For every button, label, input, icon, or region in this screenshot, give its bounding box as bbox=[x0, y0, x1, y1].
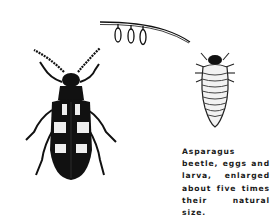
figure-caption: Asparagus beetle, eggs and larva, enlarg… bbox=[182, 146, 270, 217]
figure: Asparagus beetle, eggs and larva, enlarg… bbox=[0, 0, 272, 217]
eggs-on-stem-icon bbox=[100, 22, 190, 45]
larva-icon bbox=[195, 53, 235, 127]
asparagus-beetle-icon bbox=[26, 48, 116, 180]
